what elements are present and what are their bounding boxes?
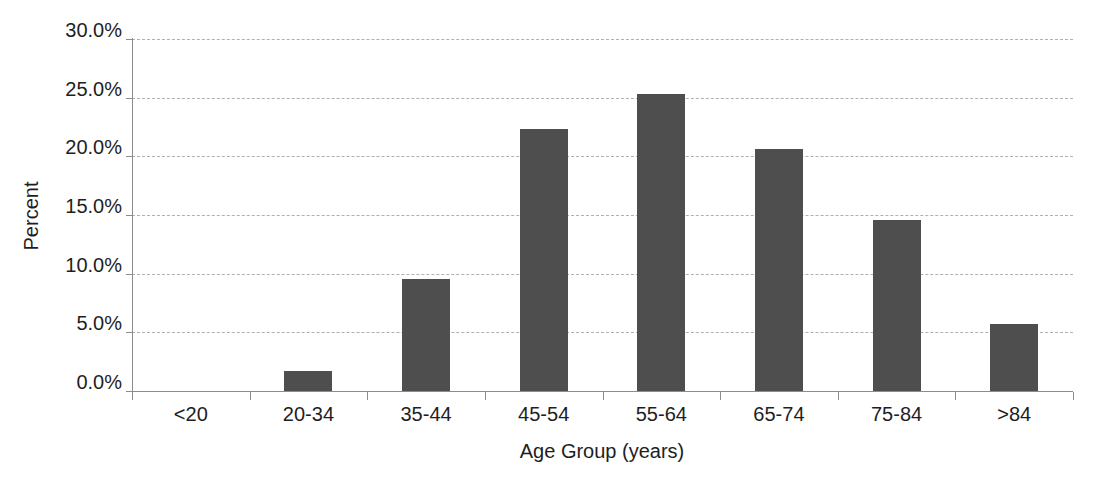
x-tick-4	[603, 392, 604, 400]
x-tick-6	[838, 392, 839, 400]
gridline-20	[132, 156, 1073, 157]
y-tick-label-25: 25.0%	[65, 79, 122, 99]
x-axis-title: Age Group (years)	[520, 440, 685, 463]
x-tick-label-lt-20: <20	[132, 404, 250, 424]
bar-35-44	[402, 279, 450, 392]
y-axis-line	[132, 38, 133, 400]
bar-75-84	[873, 220, 921, 392]
y-tick-label-10: 10.0%	[65, 255, 122, 275]
x-tick-2	[367, 392, 368, 400]
x-tick-label-75-84: 75-84	[838, 404, 956, 424]
y-axis-title: Percent	[20, 182, 43, 251]
bar-20-34	[284, 371, 332, 392]
bar-45-54	[520, 129, 568, 392]
bar-55-64	[637, 94, 685, 392]
gridline-15	[132, 215, 1073, 216]
y-tick-label-30: 30.0%	[65, 20, 122, 40]
x-tick-label-35-44: 35-44	[367, 404, 485, 424]
x-tick-1	[250, 392, 251, 400]
plot-area: 0.0%5.0%10.0%15.0%20.0%25.0%30.0% <2020-…	[132, 40, 1073, 392]
x-tick-label-65-74: 65-74	[720, 404, 838, 424]
x-tick-3	[485, 392, 486, 400]
bar-chart-figure: Percent 0.0%5.0%10.0%15.0%20.0%25.0%30.0…	[0, 0, 1095, 491]
x-tick-label-45-54: 45-54	[485, 404, 603, 424]
x-tick-7	[955, 392, 956, 400]
x-tick-label-20-34: 20-34	[250, 404, 368, 424]
x-tick-5	[720, 392, 721, 400]
y-tick-label-0: 0.0%	[76, 372, 122, 392]
bar-65-74	[755, 149, 803, 392]
gridline-30	[132, 39, 1073, 40]
gridline-25	[132, 98, 1073, 99]
x-tick-8	[1073, 392, 1074, 400]
x-tick-label-gt-84: >84	[955, 404, 1073, 424]
y-tick-label-5: 5.0%	[76, 313, 122, 333]
x-axis-line	[132, 391, 1073, 392]
y-tick-label-15: 15.0%	[65, 196, 122, 216]
y-tick-label-20: 20.0%	[65, 137, 122, 157]
gridline-10	[132, 274, 1073, 275]
x-tick-label-55-64: 55-64	[603, 404, 721, 424]
bar-gt-84	[990, 324, 1038, 392]
gridline-5	[132, 332, 1073, 333]
